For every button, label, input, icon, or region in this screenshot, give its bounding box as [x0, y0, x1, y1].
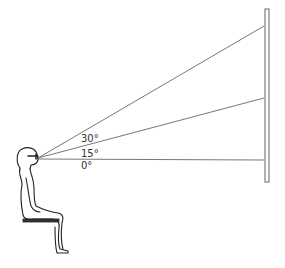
seat — [23, 219, 59, 222]
angle-label-0: 0° — [81, 160, 92, 171]
sight-line-15 — [38, 98, 264, 158]
angle-label-30: 30° — [81, 133, 99, 144]
seated-person — [17, 148, 68, 253]
angle-label-15: 15° — [81, 148, 99, 159]
sight-line-30 — [38, 26, 264, 158]
sight-line-0 — [38, 159, 264, 160]
viewing-angle-diagram: 30° 15° 0° — [0, 0, 285, 268]
screen — [265, 9, 269, 182]
